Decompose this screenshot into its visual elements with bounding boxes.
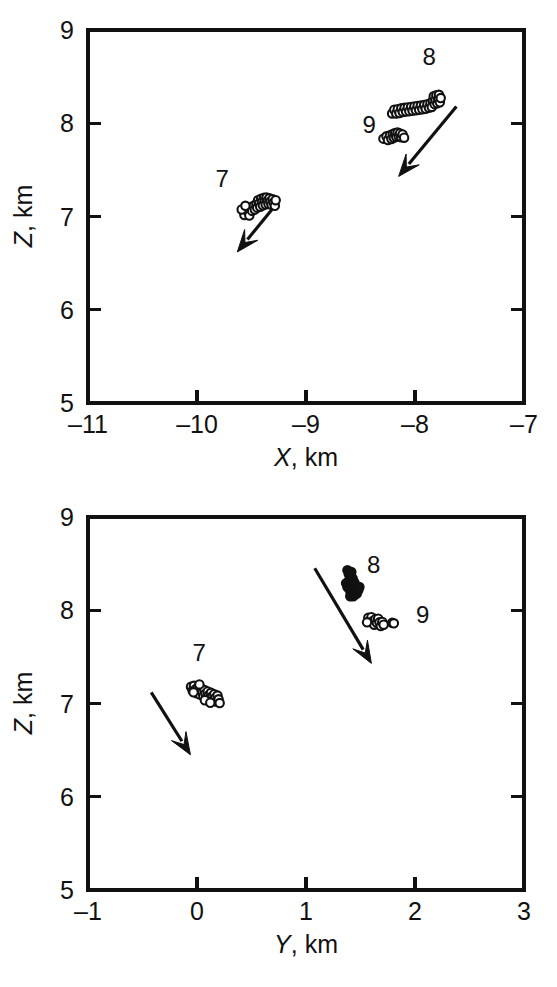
x-axis-tick-label: –8 bbox=[401, 410, 429, 438]
data-point-cluster-7 bbox=[215, 699, 223, 707]
data-points-bottom bbox=[187, 566, 398, 707]
x-axis-tick-label: –11 bbox=[68, 410, 108, 438]
data-point-cluster-9 bbox=[390, 619, 398, 627]
data-point-cluster-8 bbox=[342, 579, 350, 587]
x-axis-tick-labels-top: –11–10–9–8–7 bbox=[68, 410, 538, 438]
data-points-top bbox=[237, 91, 444, 220]
y-axis-tick-label: 8 bbox=[60, 109, 74, 137]
y-axis-title-bottom: Z, km bbox=[9, 672, 37, 736]
motion-arrows-top bbox=[237, 106, 456, 251]
scatter-plot-xz: 56789 –11–10–9–8–7 789 X, km Z, km bbox=[0, 0, 557, 494]
axis-ticks-bottom bbox=[88, 610, 524, 890]
arrow-cluster-8-9-head bbox=[353, 640, 372, 663]
y-axis-tick-labels-bottom: 56789 bbox=[60, 503, 74, 904]
y-axis-title-top: Z, km bbox=[9, 185, 37, 249]
data-point-cluster-9 bbox=[400, 134, 408, 142]
y-axis-tick-label: 6 bbox=[60, 296, 74, 324]
y-axis-tick-label: 8 bbox=[60, 596, 74, 624]
x-axis-tick-label: 2 bbox=[408, 897, 422, 925]
y-axis-tick-label: 9 bbox=[60, 16, 74, 44]
cluster-label-7: 7 bbox=[215, 165, 228, 192]
plot-frame-bottom bbox=[88, 517, 524, 890]
cluster-label-9: 9 bbox=[363, 111, 376, 138]
axis-ticks-top bbox=[88, 123, 524, 403]
data-point-cluster-7 bbox=[195, 680, 203, 688]
panel-yz: 56789 –10123 789 Y, km Z, km bbox=[0, 494, 557, 987]
x-axis-tick-labels-bottom: –10123 bbox=[74, 897, 531, 925]
data-point-cluster-7 bbox=[189, 688, 197, 696]
figure-root: 56789 –11–10–9–8–7 789 X, km Z, km 56789… bbox=[0, 0, 557, 987]
x-axis-tick-label: –10 bbox=[176, 410, 218, 438]
x-axis-tick-label: 3 bbox=[517, 897, 531, 925]
plot-frame-top bbox=[88, 30, 524, 403]
data-point-cluster-9 bbox=[363, 618, 371, 626]
cluster-labels-bottom: 789 bbox=[193, 551, 430, 666]
data-point-cluster-8 bbox=[437, 94, 445, 102]
y-axis-tick-label: 5 bbox=[60, 876, 74, 904]
data-point-cluster-7 bbox=[272, 196, 280, 204]
x-axis-tick-label: –7 bbox=[510, 410, 538, 438]
data-point-cluster-7 bbox=[241, 202, 249, 210]
y-axis-tick-label: 6 bbox=[60, 783, 74, 811]
arrow-cluster-7-head bbox=[172, 732, 191, 755]
x-axis-tick-label: –1 bbox=[74, 897, 102, 925]
y-axis-tick-labels-top: 56789 bbox=[60, 16, 74, 417]
cluster-label-8: 8 bbox=[422, 43, 435, 70]
x-axis-title-bottom: Y, km bbox=[274, 930, 338, 958]
panel-xz: 56789 –11–10–9–8–7 789 X, km Z, km bbox=[0, 0, 557, 494]
x-axis-tick-label: 0 bbox=[190, 897, 204, 925]
cluster-label-9: 9 bbox=[416, 601, 429, 628]
x-axis-tick-label: 1 bbox=[299, 897, 313, 925]
y-axis-tick-label: 7 bbox=[60, 690, 74, 718]
cluster-label-7: 7 bbox=[193, 639, 206, 666]
cluster-label-8: 8 bbox=[367, 551, 380, 578]
data-point-cluster-7 bbox=[206, 699, 214, 707]
x-axis-title-top: X, km bbox=[273, 443, 338, 471]
y-axis-tick-label: 7 bbox=[60, 203, 74, 231]
x-axis-tick-label: –9 bbox=[292, 410, 320, 438]
data-point-cluster-9 bbox=[379, 621, 387, 629]
arrow-cluster-7 bbox=[151, 692, 182, 741]
motion-arrows-bottom bbox=[151, 568, 371, 755]
data-point-cluster-8 bbox=[355, 583, 363, 591]
scatter-plot-yz: 56789 –10123 789 Y, km Z, km bbox=[0, 494, 557, 987]
y-axis-tick-label: 9 bbox=[60, 503, 74, 531]
